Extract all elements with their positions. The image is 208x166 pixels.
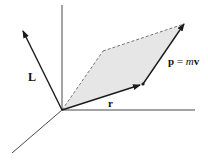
label-r: r	[108, 97, 113, 109]
label-equals: =	[174, 55, 186, 67]
angular-momentum-diagram: L r p = mv	[0, 0, 208, 166]
label-m: m	[186, 55, 194, 67]
parallelogram-area	[62, 24, 184, 110]
label-L: L	[28, 70, 36, 84]
y-axis	[12, 110, 62, 153]
label-p-equals-mv: p = mv	[168, 55, 200, 67]
label-v: v	[194, 55, 200, 67]
